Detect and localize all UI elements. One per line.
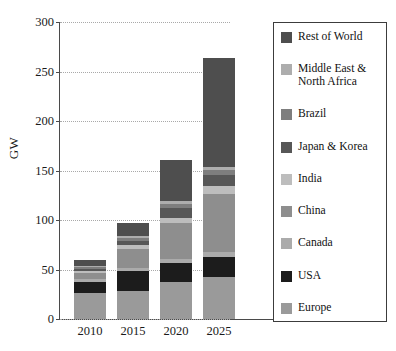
legend-swatch-usa — [281, 271, 292, 282]
bar-segment-usa-2020 — [160, 263, 192, 283]
bar-segment-europe-2020 — [160, 282, 192, 319]
bar-segment-rest-of-world-2020 — [160, 160, 192, 202]
legend-label-india: India — [298, 172, 322, 185]
legend-label-brazil: Brazil — [298, 107, 326, 120]
bar-segment-rest-of-world-2025 — [203, 58, 235, 167]
bar-segment-usa-2025 — [203, 257, 235, 278]
bar-segment-china-2020 — [160, 223, 192, 259]
bar-segment-usa-2010 — [74, 282, 106, 293]
legend-swatch-rest-of-world — [281, 32, 292, 43]
stacked-bar-2025 — [203, 58, 235, 319]
y-tick-label-250: 250 — [35, 65, 60, 78]
bar-segment-rest-of-world-2015 — [117, 223, 149, 236]
legend-label-europe: Europe — [298, 301, 331, 314]
stacked-bar-2010 — [74, 260, 106, 319]
x-tick-label-2025: 2025 — [189, 324, 249, 339]
stacked-bar-chart: GW 0501001502002503002010201520202025 Re… — [0, 0, 396, 351]
legend-label-rest-of-world: Rest of World — [298, 30, 363, 43]
chart-legend: Rest of WorldMiddle East &North AfricaBr… — [273, 22, 387, 322]
legend-swatch-europe — [281, 303, 292, 314]
legend-label-china: China — [298, 204, 326, 217]
legend-label-japan-korea: Japan & Korea — [298, 140, 368, 153]
stacked-bar-2020 — [160, 160, 192, 319]
y-tick-label-50: 50 — [42, 263, 61, 276]
legend-item-usa[interactable]: USA — [281, 269, 381, 282]
legend-label-usa: USA — [298, 269, 321, 282]
legend-swatch-canada — [281, 238, 292, 249]
legend-item-japan-korea[interactable]: Japan & Korea — [281, 140, 381, 153]
legend-swatch-japan-korea — [281, 142, 292, 153]
legend-item-china[interactable]: China — [281, 204, 381, 217]
gridline-0 — [60, 319, 230, 320]
bar-segment-japan-korea-2025 — [203, 175, 235, 186]
legend-item-middle-east-north-africa[interactable]: Middle East &North Africa — [281, 62, 381, 88]
stacked-bar-2015 — [117, 223, 149, 319]
legend-item-canada[interactable]: Canada — [281, 236, 381, 249]
bar-segment-china-2025 — [203, 194, 235, 251]
y-axis-title: GW — [6, 137, 22, 160]
legend-label-middle-east-north-africa: Middle East &North Africa — [298, 62, 366, 88]
legend-swatch-india — [281, 174, 292, 185]
plot-area: 0501001502002503002010201520202025 — [60, 22, 230, 319]
legend-item-brazil[interactable]: Brazil — [281, 107, 381, 120]
bar-segment-india-2025 — [203, 186, 235, 194]
legend-swatch-brazil — [281, 109, 292, 120]
y-tick-label-100: 100 — [35, 214, 60, 227]
legend-item-rest-of-world[interactable]: Rest of World — [281, 30, 381, 43]
y-tick-label-300: 300 — [35, 16, 60, 29]
y-tick-label-200: 200 — [35, 115, 60, 128]
bar-segment-usa-2015 — [117, 271, 149, 291]
legend-label-canada: Canada — [298, 236, 333, 249]
y-tick-label-150: 150 — [35, 164, 60, 177]
bar-segment-europe-2025 — [203, 277, 235, 319]
bar-segment-europe-2010 — [74, 293, 106, 319]
legend-swatch-middle-east-north-africa — [281, 64, 292, 75]
bar-segment-europe-2015 — [117, 291, 149, 319]
bar-group-2020: 2020 — [160, 22, 192, 319]
bar-group-2010: 2010 — [74, 22, 106, 319]
bar-group-2025: 2025 — [203, 22, 235, 319]
legend-item-india[interactable]: India — [281, 172, 381, 185]
bar-segment-japan-korea-2020 — [160, 208, 192, 218]
legend-item-europe[interactable]: Europe — [281, 301, 381, 314]
legend-swatch-china — [281, 206, 292, 217]
bar-group-2015: 2015 — [117, 22, 149, 319]
y-tick-label-0: 0 — [48, 313, 60, 326]
bar-segment-china-2015 — [117, 249, 149, 269]
